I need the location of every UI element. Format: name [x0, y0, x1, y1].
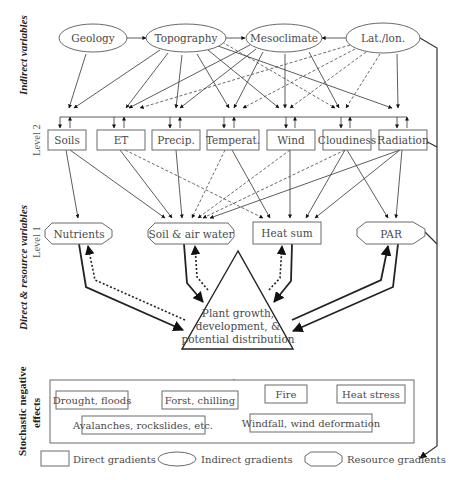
plant-growth-triangle: Plant growth, development, & potential d…	[182, 251, 295, 349]
side-label-level1: Level 1	[31, 226, 42, 258]
legend-direct-gradients: Direct gradients	[41, 451, 156, 466]
svg-text:Lat./lon.: Lat./lon.	[361, 32, 405, 44]
svg-text:Soils: Soils	[54, 134, 80, 146]
resource-node-heat-sum: Heat sum	[253, 222, 321, 244]
indirect-node-latlon: Lat./lon.	[346, 23, 420, 53]
svg-text:Heat sum: Heat sum	[261, 227, 312, 239]
resource-node-soil-air-water: Soil & air water	[148, 223, 234, 244]
svg-text:Direct & resource variables: Direct & resource variables	[17, 205, 29, 331]
svg-text:Wind: Wind	[277, 134, 305, 146]
svg-text:Heat stress: Heat stress	[342, 389, 400, 400]
svg-text:Level 1: Level 1	[31, 226, 42, 258]
direct-node-radiation: Radiation	[377, 130, 429, 150]
svg-text:Cloudiness: Cloudiness	[318, 134, 376, 146]
stochastic-item-avalanches: Avalanches, rockslides, etc.	[72, 416, 213, 434]
svg-text:potential distribution: potential distribution	[182, 333, 295, 345]
stochastic-item-fire: Fire	[265, 385, 307, 403]
svg-text:Soil & air water: Soil & air water	[149, 228, 235, 240]
indirect-node-mesoclimate: Mesoclimate	[246, 24, 322, 52]
svg-text:Level 2: Level 2	[31, 124, 42, 156]
resource-node-par: PAR	[357, 222, 425, 244]
direct-node-cloudiness: Cloudiness	[318, 130, 376, 150]
svg-text:Resource gradients: Resource gradients	[347, 454, 446, 465]
side-label-level2: Level 2	[31, 124, 42, 156]
svg-text:Precip.: Precip.	[157, 134, 195, 146]
indirect-node-topography: Topography	[146, 24, 226, 52]
svg-text:Stochastic negative: Stochastic negative	[16, 366, 28, 456]
stochastic-item-windfall: Windfall, wind deformation	[242, 414, 381, 432]
svg-text:Temperat.: Temperat.	[206, 134, 260, 146]
direct-node-soils: Soils	[48, 130, 86, 150]
side-label-direct-resource: Direct & resource variables	[17, 205, 29, 331]
svg-text:effects: effects	[30, 397, 42, 428]
svg-text:Direct gradients: Direct gradients	[73, 454, 156, 465]
svg-text:ET: ET	[114, 134, 129, 146]
svg-text:Avalanches, rockslides, etc.: Avalanches, rockslides, etc.	[72, 420, 213, 431]
direct-node-et: ET	[97, 130, 145, 150]
stochastic-item-drought: Drought, floods	[53, 391, 132, 409]
legend-resource-gradients: Resource gradients	[305, 452, 446, 466]
stochastic-item-heat-stress: Heat stress	[337, 385, 405, 403]
indirect-node-geology: Geology	[59, 24, 127, 52]
resource-node-nutrients: Nutrients	[45, 223, 112, 244]
plant-growth-gradient-diagram: Indirect variables Direct & resource var…	[0, 0, 454, 480]
svg-text:Topography: Topography	[155, 32, 218, 44]
svg-text:Windfall, wind deformation: Windfall, wind deformation	[242, 418, 381, 429]
legend-indirect-gradients: Indirect gradients	[158, 452, 293, 466]
svg-text:Drought, floods: Drought, floods	[53, 395, 132, 406]
svg-text:PAR: PAR	[380, 228, 403, 240]
side-label-stochastic: Stochastic negative effects	[16, 366, 42, 456]
direct-node-temperat: Temperat.	[206, 130, 260, 150]
svg-text:Geology: Geology	[71, 32, 114, 44]
direct-node-wind: Wind	[267, 130, 315, 150]
svg-text:development, &: development, &	[196, 320, 281, 332]
svg-text:Indirect gradients: Indirect gradients	[201, 454, 293, 465]
svg-text:Plant growth,: Plant growth,	[202, 307, 274, 319]
direct-node-precip: Precip.	[152, 130, 200, 150]
svg-text:Forst, chilling: Forst, chilling	[165, 395, 236, 406]
stochastic-item-frost: Forst, chilling	[162, 391, 238, 409]
svg-text:Nutrients: Nutrients	[53, 228, 104, 240]
svg-text:Mesoclimate: Mesoclimate	[250, 32, 318, 44]
svg-text:Radiation: Radiation	[377, 134, 429, 146]
svg-text:Indirect variables: Indirect variables	[17, 15, 29, 96]
svg-text:Fire: Fire	[276, 389, 297, 400]
side-label-indirect: Indirect variables	[17, 15, 29, 96]
